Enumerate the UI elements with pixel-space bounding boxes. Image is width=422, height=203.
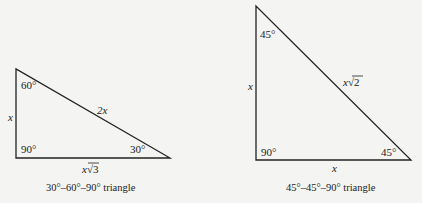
hypotenuse-x-root2: x√2 (343, 77, 359, 88)
angle-90: 90° (261, 147, 276, 158)
base-x: x (332, 163, 337, 174)
triangles-drawing (0, 0, 422, 203)
caption-45-45-90: 45°–45°–90° triangle (286, 182, 375, 193)
triangle-30-60-90 (16, 69, 170, 158)
angle-60: 60° (21, 80, 36, 91)
angle-45-top: 45° (260, 29, 275, 40)
side-x: x (8, 112, 13, 123)
base-x-root3: x√3 (82, 164, 98, 175)
hypotenuse-2x: 2x (97, 105, 107, 116)
angle-45-bottom: 45° (381, 147, 396, 158)
angle-30: 30° (130, 144, 145, 155)
triangle-45-45-90 (256, 6, 411, 160)
angle-90: 90° (21, 144, 36, 155)
caption-30-60-90: 30°–60°–90° triangle (46, 182, 135, 193)
side-x: x (248, 81, 253, 92)
